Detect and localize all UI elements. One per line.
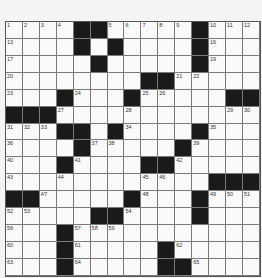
grid-cell[interactable]: 16 [209, 39, 226, 56]
grid-cell[interactable]: 25 [141, 90, 158, 107]
grid-cell[interactable]: 19 [209, 56, 226, 73]
grid-cell[interactable] [91, 107, 108, 124]
grid-cell[interactable] [141, 56, 158, 73]
grid-cell[interactable] [243, 157, 260, 174]
grid-cell[interactable] [209, 242, 226, 259]
grid-cell[interactable]: 29 [226, 107, 243, 124]
grid-cell[interactable]: 63 [6, 259, 23, 276]
grid-cell[interactable]: 20 [6, 73, 23, 90]
grid-cell[interactable] [243, 208, 260, 225]
grid-cell[interactable] [141, 140, 158, 157]
grid-cell[interactable]: 4 [57, 22, 74, 39]
grid-cell[interactable] [40, 39, 57, 56]
grid-cell[interactable] [91, 39, 108, 56]
grid-cell[interactable]: 39 [192, 140, 209, 157]
grid-cell[interactable] [74, 174, 91, 191]
grid-cell[interactable] [158, 191, 175, 208]
grid-cell[interactable]: 27 [57, 107, 74, 124]
grid-cell[interactable] [74, 107, 91, 124]
grid-cell[interactable] [40, 259, 57, 276]
grid-cell[interactable] [124, 39, 141, 56]
grid-cell[interactable] [175, 107, 192, 124]
grid-cell[interactable] [141, 225, 158, 242]
grid-cell[interactable] [226, 157, 243, 174]
grid-cell[interactable]: 40 [6, 157, 23, 174]
grid-cell[interactable]: 11 [226, 22, 243, 39]
grid-cell[interactable]: 60 [6, 242, 23, 259]
grid-cell[interactable]: 51 [243, 191, 260, 208]
grid-cell[interactable]: 41 [74, 157, 91, 174]
grid-cell[interactable] [158, 124, 175, 141]
grid-cell[interactable]: 46 [158, 174, 175, 191]
grid-cell[interactable] [91, 124, 108, 141]
grid-cell[interactable] [57, 73, 74, 90]
grid-cell[interactable] [108, 174, 125, 191]
grid-cell[interactable] [108, 242, 125, 259]
grid-cell[interactable] [74, 191, 91, 208]
grid-cell[interactable] [23, 225, 40, 242]
grid-cell[interactable]: 59 [108, 225, 125, 242]
grid-cell[interactable] [209, 157, 226, 174]
grid-cell[interactable] [108, 157, 125, 174]
grid-cell[interactable] [158, 107, 175, 124]
grid-cell[interactable]: 3 [40, 22, 57, 39]
grid-cell[interactable] [40, 73, 57, 90]
grid-cell[interactable]: 5 [108, 22, 125, 39]
grid-cell[interactable] [226, 225, 243, 242]
grid-cell[interactable]: 57 [74, 225, 91, 242]
grid-cell[interactable] [40, 56, 57, 73]
grid-cell[interactable] [243, 140, 260, 157]
grid-cell[interactable]: 37 [91, 140, 108, 157]
grid-cell[interactable] [175, 39, 192, 56]
grid-cell[interactable]: 10 [209, 22, 226, 39]
grid-cell[interactable] [209, 90, 226, 107]
grid-cell[interactable] [141, 208, 158, 225]
grid-cell[interactable] [226, 73, 243, 90]
grid-cell[interactable] [108, 73, 125, 90]
grid-cell[interactable] [57, 140, 74, 157]
grid-cell[interactable] [243, 242, 260, 259]
grid-cell[interactable]: 50 [226, 191, 243, 208]
grid-cell[interactable] [74, 56, 91, 73]
grid-cell[interactable]: 42 [175, 157, 192, 174]
grid-cell[interactable] [108, 107, 125, 124]
grid-cell[interactable] [23, 90, 40, 107]
grid-cell[interactable] [91, 191, 108, 208]
grid-cell[interactable] [243, 225, 260, 242]
grid-cell[interactable] [23, 73, 40, 90]
grid-cell[interactable] [226, 259, 243, 276]
grid-cell[interactable]: 52 [6, 208, 23, 225]
grid-cell[interactable] [91, 259, 108, 276]
grid-cell[interactable] [158, 56, 175, 73]
grid-cell[interactable] [57, 208, 74, 225]
grid-cell[interactable] [158, 140, 175, 157]
grid-cell[interactable] [209, 73, 226, 90]
grid-cell[interactable] [243, 56, 260, 73]
grid-cell[interactable] [40, 242, 57, 259]
grid-cell[interactable] [192, 90, 209, 107]
grid-cell[interactable] [192, 225, 209, 242]
grid-cell[interactable]: 1 [6, 22, 23, 39]
grid-cell[interactable] [243, 39, 260, 56]
grid-cell[interactable] [141, 107, 158, 124]
grid-cell[interactable] [141, 124, 158, 141]
grid-cell[interactable]: 12 [243, 22, 260, 39]
grid-cell[interactable]: 45 [141, 174, 158, 191]
grid-cell[interactable] [124, 157, 141, 174]
grid-cell[interactable]: 35 [209, 124, 226, 141]
grid-cell[interactable] [23, 157, 40, 174]
grid-cell[interactable] [23, 39, 40, 56]
grid-cell[interactable]: 49 [209, 191, 226, 208]
grid-cell[interactable] [124, 225, 141, 242]
grid-cell[interactable] [209, 140, 226, 157]
grid-cell[interactable]: 33 [40, 124, 57, 141]
grid-cell[interactable]: 28 [124, 107, 141, 124]
grid-cell[interactable] [74, 73, 91, 90]
grid-cell[interactable]: 47 [40, 191, 57, 208]
grid-cell[interactable] [108, 259, 125, 276]
grid-cell[interactable]: 43 [6, 174, 23, 191]
grid-cell[interactable] [124, 56, 141, 73]
grid-cell[interactable]: 61 [74, 242, 91, 259]
grid-cell[interactable] [91, 242, 108, 259]
grid-cell[interactable] [192, 107, 209, 124]
